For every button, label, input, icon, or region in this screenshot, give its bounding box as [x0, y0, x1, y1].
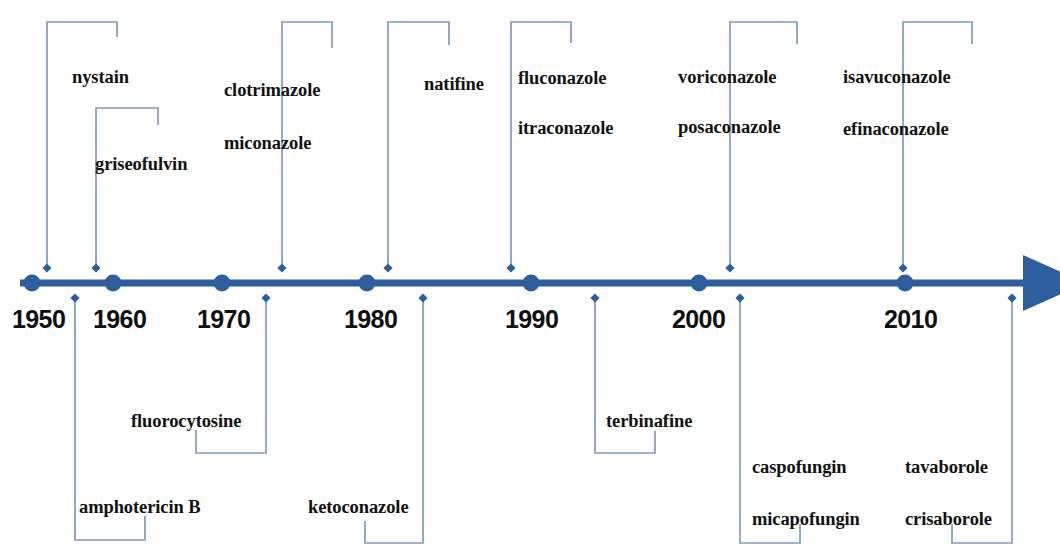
drug-label-voriconazole: voriconazole [678, 68, 776, 87]
year-label-1970: 1970 [197, 307, 250, 332]
bracket-path [47, 22, 117, 268]
bracket-below-caspofungin-micapofungin [735, 293, 800, 543]
year-label-1950: 1950 [12, 307, 65, 332]
year-label-1960: 1960 [93, 307, 146, 332]
bracket-path [511, 22, 571, 268]
bracket-above-natifine [383, 22, 449, 273]
bracket-tip-diamond [42, 263, 51, 272]
bracket-tip-diamond [506, 263, 515, 272]
decade-dot-1960 [105, 275, 122, 292]
bracket-tip-diamond [725, 263, 734, 272]
bracket-tip-diamond [1007, 293, 1016, 302]
drug-label-fluorocytosine: fluorocytosine [131, 412, 241, 431]
drug-label-caspofungin: caspofungin [752, 458, 847, 477]
decade-dot-1990 [523, 275, 540, 292]
bracket-below-tavaborole-crisaborole [952, 293, 1017, 543]
bracket-path [730, 22, 797, 268]
drug-label-posaconazole: posaconazole [678, 118, 781, 137]
bracket-above-griseofulvin [91, 108, 158, 273]
bracket-tip-diamond [277, 263, 286, 272]
bracket-tip-diamond [383, 263, 392, 272]
drug-label-crisaborole: crisaborole [905, 510, 992, 529]
bracket-path [96, 108, 158, 268]
bracket-tip-diamond [91, 263, 100, 272]
bracket-tip-diamond [735, 293, 744, 302]
bracket-above-fluconazole-itraconazole [506, 22, 571, 273]
drug-label-ketoconazole: ketoconazole [308, 498, 409, 517]
antifungal-timeline-figure: 1950196019701980199020002010nystaingrise… [0, 0, 1060, 558]
drug-label-miconazole: miconazole [224, 134, 311, 153]
bracket-above-isavuconazole-efinaconazole [898, 22, 972, 273]
drug-label-isavuconazole: isavuconazole [843, 68, 951, 87]
year-label-1990: 1990 [505, 307, 558, 332]
drug-label-nystain: nystain [72, 68, 129, 87]
bracket-path [952, 298, 1012, 543]
decade-dot-2010 [897, 275, 914, 292]
decade-dot-1950 [24, 275, 41, 292]
drug-label-clotrimazole: clotrimazole [224, 81, 320, 100]
year-label-2000: 2000 [672, 307, 725, 332]
decade-dot-2000 [691, 275, 708, 292]
decade-dot-1970 [214, 275, 231, 292]
drug-label-itraconazole: itraconazole [518, 119, 613, 138]
bracket-tip-diamond [898, 263, 907, 272]
bracket-above-voriconazole-posaconazole [725, 22, 797, 273]
bracket-path [388, 22, 449, 268]
drug-label-terbinafine: terbinafine [606, 412, 692, 431]
bracket-path [740, 298, 800, 543]
bracket-path [903, 22, 972, 268]
drug-label-fluconazole: fluconazole [518, 69, 606, 88]
drug-label-efinaconazole: efinaconazole [843, 120, 949, 139]
bracket-above-nystain [42, 22, 117, 273]
year-label-1980: 1980 [344, 307, 397, 332]
decade-dot-1980 [359, 275, 376, 292]
drug-label-tavaborole: tavaborole [905, 458, 988, 477]
drug-label-griseofulvin: griseofulvin [95, 155, 187, 174]
drug-label-micapofungin: micapofungin [752, 510, 860, 529]
bracket-tip-diamond [418, 293, 427, 302]
year-label-2010: 2010 [884, 307, 937, 332]
drug-label-amphotericin-b: amphotericin B [79, 498, 200, 517]
drug-label-natifine: natifine [424, 75, 484, 94]
bracket-tip-diamond [261, 293, 270, 302]
bracket-tip-diamond [590, 293, 599, 302]
bracket-tip-diamond [70, 293, 79, 302]
